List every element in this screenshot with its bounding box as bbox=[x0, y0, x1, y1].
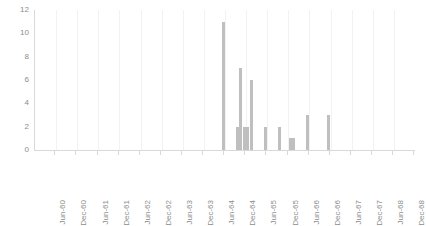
x-tick-label: Jun-61 bbox=[101, 200, 110, 224]
x-tick-label-text: Dec-63 bbox=[206, 200, 215, 226]
gridline bbox=[204, 10, 205, 150]
bar bbox=[222, 22, 225, 150]
gridline bbox=[56, 10, 57, 150]
x-tick-label: Dec-65 bbox=[291, 200, 300, 226]
gridline bbox=[331, 10, 332, 150]
x-tick bbox=[223, 151, 224, 155]
x-tick-label: Dec-66 bbox=[333, 200, 342, 226]
x-tick bbox=[392, 151, 393, 155]
gridline bbox=[225, 10, 226, 150]
x-tick-label-text: Jun-66 bbox=[312, 200, 321, 224]
x-tick-label-text: Dec-64 bbox=[248, 200, 257, 226]
bar bbox=[264, 127, 267, 150]
x-tick-label: Jun-62 bbox=[143, 200, 152, 224]
x-tick-label: Jun-63 bbox=[185, 200, 194, 224]
bar bbox=[306, 115, 309, 150]
x-tick-label-text: Dec-62 bbox=[164, 200, 173, 226]
y-axis: 024681012 bbox=[0, 0, 34, 156]
gridline bbox=[77, 10, 78, 150]
y-tick-label: 12 bbox=[20, 6, 29, 14]
x-tick-label-text: Jun-63 bbox=[185, 200, 194, 224]
x-tick-label-text: Dec-61 bbox=[122, 200, 131, 226]
x-tick-label: Dec-60 bbox=[79, 200, 88, 226]
x-tick-label-text: Jun-67 bbox=[354, 200, 363, 224]
x-axis: Jun-60Dec-60Jun-61Dec-61Jun-62Dec-62Jun-… bbox=[35, 156, 415, 204]
x-tick-label-text: Dec-66 bbox=[333, 200, 342, 226]
x-tick-label: Dec-63 bbox=[206, 200, 215, 226]
y-tick-label: 2 bbox=[25, 123, 29, 131]
x-tick bbox=[75, 151, 76, 155]
x-tick bbox=[265, 151, 266, 155]
x-tick bbox=[118, 151, 119, 155]
x-tick-label: Dec-67 bbox=[375, 200, 384, 226]
x-tick-label-text: Jun-62 bbox=[143, 200, 152, 224]
bar bbox=[327, 115, 330, 150]
x-tick-label: Jun-60 bbox=[58, 200, 67, 224]
x-tick-label-text: Dec-65 bbox=[291, 200, 300, 226]
x-tick-label-text: Dec-67 bbox=[375, 200, 384, 226]
gridline bbox=[141, 10, 142, 150]
x-tick-label: Jun-67 bbox=[354, 200, 363, 224]
x-tick-label: Dec-61 bbox=[122, 200, 131, 226]
y-tick-label: 0 bbox=[25, 146, 29, 154]
gridline bbox=[162, 10, 163, 150]
x-tick-label-text: Jun-60 bbox=[58, 200, 67, 224]
x-tick-label-text: Jun-68 bbox=[396, 200, 405, 224]
x-tick-label-text: Jun-65 bbox=[269, 200, 278, 224]
gridline bbox=[119, 10, 120, 150]
x-tick bbox=[413, 151, 414, 155]
x-tick-label-text: Jun-61 bbox=[101, 200, 110, 224]
x-tick-label-text: Jun-64 bbox=[227, 200, 236, 224]
x-tick bbox=[350, 151, 351, 155]
gridline bbox=[288, 10, 289, 150]
plot-area bbox=[35, 10, 415, 150]
x-tick bbox=[308, 151, 309, 155]
y-tick-label: 10 bbox=[20, 29, 29, 37]
y-tick-label: 4 bbox=[25, 99, 29, 107]
y-tick-label: 6 bbox=[25, 76, 29, 84]
x-tick bbox=[329, 151, 330, 155]
x-tick bbox=[244, 151, 245, 155]
x-tick-label: Jun-64 bbox=[227, 200, 236, 224]
x-tick-label-text: Dec-60 bbox=[79, 200, 88, 226]
x-tick bbox=[202, 151, 203, 155]
x-tick-label-text: Dec-68 bbox=[417, 200, 426, 226]
gridline bbox=[394, 10, 395, 150]
x-tick-label: Dec-68 bbox=[417, 200, 426, 226]
gridline bbox=[183, 10, 184, 150]
gridline bbox=[267, 10, 268, 150]
bar bbox=[278, 127, 281, 150]
x-tick bbox=[97, 151, 98, 155]
x-tick-label: Jun-65 bbox=[269, 200, 278, 224]
bar bbox=[250, 80, 253, 150]
x-tick-label: Jun-66 bbox=[312, 200, 321, 224]
y-tick-label: 8 bbox=[25, 53, 29, 61]
x-tick-label: Jun-68 bbox=[396, 200, 405, 224]
x-tick bbox=[54, 151, 55, 155]
x-tick bbox=[160, 151, 161, 155]
x-tick-label: Dec-62 bbox=[164, 200, 173, 226]
x-tick bbox=[371, 151, 372, 155]
x-tick bbox=[139, 151, 140, 155]
x-tick-label: Dec-64 bbox=[248, 200, 257, 226]
gridline bbox=[373, 10, 374, 150]
gridline bbox=[352, 10, 353, 150]
bar bbox=[292, 138, 295, 150]
x-tick bbox=[181, 151, 182, 155]
x-tick bbox=[287, 151, 288, 155]
gridline bbox=[98, 10, 99, 150]
